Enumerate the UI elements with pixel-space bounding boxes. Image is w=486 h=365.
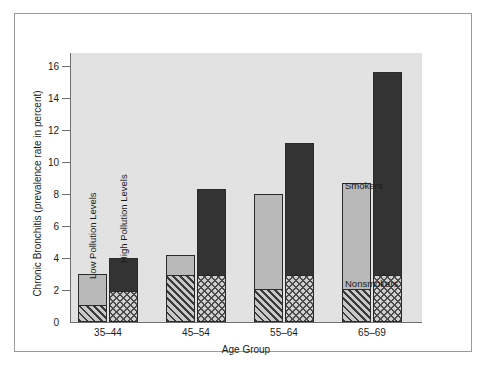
bar-segment-smokers <box>286 144 313 275</box>
bar-segment-nonsmokers <box>110 291 137 321</box>
y-tick-mark <box>62 194 71 195</box>
x-tick-label: 55–64 <box>244 327 324 338</box>
bar-segment-smokers <box>198 190 225 275</box>
y-tick-mark <box>62 226 71 227</box>
bar-segment-smokers <box>110 259 137 291</box>
chart-figure: 0246810121416 Chronic Bronchitis (preval… <box>14 13 472 352</box>
bar-segment-smokers <box>343 184 370 290</box>
y-tick-mark <box>62 290 71 291</box>
x-axis-title: Age Group <box>70 344 422 355</box>
bar-segment-nonsmokers <box>167 275 194 321</box>
bar-segment-smokers <box>374 73 401 275</box>
x-tick-label: 65–69 <box>332 327 412 338</box>
y-axis-line <box>70 53 71 323</box>
bar-low <box>166 255 195 322</box>
low-pollution-caption: Low Pollution Levels <box>87 192 98 279</box>
bar-segment-nonsmokers <box>79 305 106 321</box>
bar-high <box>197 189 226 322</box>
smokers-annotation: Smokers <box>345 180 382 191</box>
x-axis-line <box>70 322 422 323</box>
bar-segment-nonsmokers <box>343 289 370 321</box>
bar-segment-smokers <box>79 275 106 305</box>
bar-high <box>109 258 138 322</box>
y-axis-title: Chronic Bronchitis (prevalence rate in p… <box>32 69 43 319</box>
bar-low <box>342 183 371 322</box>
bar-high <box>285 143 314 322</box>
y-tick-mark <box>62 98 71 99</box>
bar-segment-nonsmokers <box>286 275 313 321</box>
bar-low <box>78 274 107 322</box>
y-tick-mark <box>62 130 71 131</box>
nonsmokers-annotation: Nonsmokers <box>345 278 398 289</box>
y-tick-mark <box>62 66 71 67</box>
high-pollution-caption: High Pollution Levels <box>118 174 129 263</box>
bar-low <box>254 194 283 322</box>
bar-segment-smokers <box>255 195 282 289</box>
x-tick-label: 35–44 <box>68 327 148 338</box>
y-tick-mark <box>62 258 71 259</box>
x-tick-label: 45–54 <box>156 327 236 338</box>
bar-segment-nonsmokers <box>255 289 282 321</box>
y-tick-mark <box>62 162 71 163</box>
bar-segment-nonsmokers <box>198 275 225 321</box>
bar-segment-smokers <box>167 256 194 275</box>
